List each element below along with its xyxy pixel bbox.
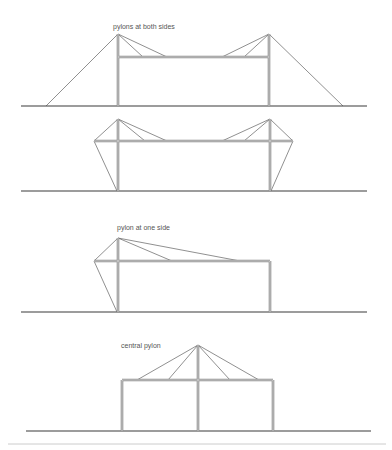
structure-central-pylon: [26, 345, 371, 431]
diagram-central-pylon: central pylon: [26, 342, 371, 431]
stay-cable: [168, 345, 198, 380]
stay-cable: [118, 34, 143, 57]
stay-cable: [118, 238, 172, 261]
structure-pylons-both-sides: [21, 34, 367, 106]
stay-cable: [222, 119, 270, 141]
structure-pylons-both-sides-anchored: [21, 119, 367, 191]
stay-cable: [198, 345, 259, 380]
stay-cable: [222, 34, 269, 57]
structure-pylon-one-side: [21, 238, 367, 312]
stay-cable: [118, 238, 240, 261]
stay-cable: [94, 238, 118, 261]
stay-cable: [118, 119, 167, 141]
stay-cable: [94, 261, 117, 312]
label-pylon-one-side: pylon at one side: [117, 224, 170, 232]
stay-cable: [118, 34, 167, 57]
diagram-pylon-one-side: pylon at one side: [21, 224, 367, 312]
stay-cable: [244, 34, 269, 57]
label-central-pylon: central pylon: [121, 342, 161, 350]
stay-cable: [118, 119, 145, 141]
stay-cable: [270, 119, 293, 141]
stay-cable: [244, 119, 270, 141]
diagram-pylons-both-sides-anchored: [21, 119, 367, 191]
stay-cable: [198, 345, 230, 380]
stay-cable: [271, 141, 293, 191]
stay-cable: [137, 345, 198, 380]
stay-cable: [94, 119, 118, 141]
label-pylons-both-sides: pylons at both sides: [113, 23, 175, 31]
stay-cable: [269, 34, 343, 106]
diagram-pylons-both-sides: pylons at both sides: [21, 23, 367, 106]
stay-cable: [94, 141, 117, 191]
cable-stayed-structures-diagram: pylons at both sides pylon at one side c…: [0, 0, 392, 450]
stay-cable: [46, 34, 118, 106]
